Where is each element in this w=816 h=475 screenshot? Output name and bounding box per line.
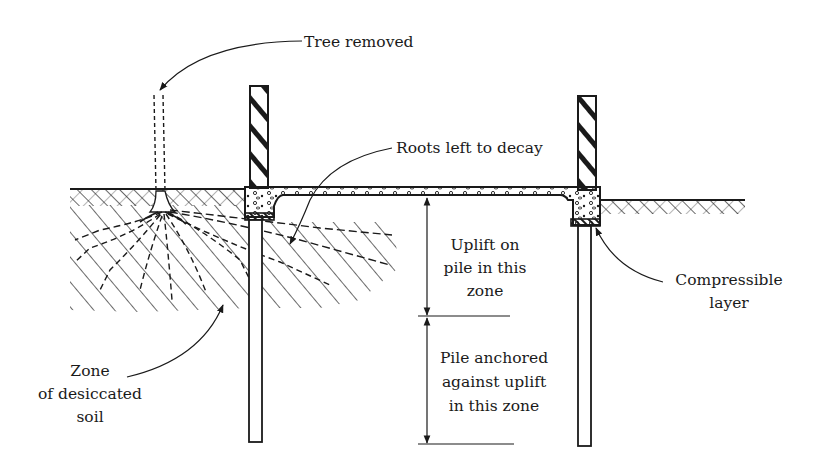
svg-text:Zone: Zone [70,362,109,380]
svg-text:pile in this: pile in this [444,259,527,277]
label-tree-removed: Tree removed [304,33,414,51]
pile-foundation-diagram: Tree removed Roots left to decay Uplift … [0,0,816,475]
label-desiccated-zone: Zone of desiccated soil [38,362,142,426]
svg-text:layer: layer [709,294,749,312]
desiccated-leader [127,305,223,377]
left-wall [250,86,268,188]
svg-text:zone: zone [467,282,504,300]
label-roots-left: Roots left to decay [396,139,543,157]
svg-text:of desiccated: of desiccated [38,385,142,403]
svg-text:against uplift: against uplift [442,373,547,391]
tree-removed-leader [160,41,302,90]
label-compressible-layer: Compressible layer [675,271,782,312]
right-wall [578,96,596,190]
svg-text:Compressible: Compressible [675,271,782,289]
svg-text:in this zone: in this zone [449,397,540,415]
label-uplift-zone: Uplift on pile in this zone [444,236,527,300]
left-pile [249,220,262,442]
desiccated-soil-zone [70,205,397,312]
compressible-leader [596,228,663,282]
right-pile [578,226,591,446]
svg-text:Uplift on: Uplift on [450,236,519,254]
svg-text:soil: soil [76,408,103,426]
ground-beam [245,187,600,225]
label-anchored-zone: Pile anchored against uplift in this zon… [440,349,548,415]
removed-tree-outline [154,95,165,191]
ground-surface-right [600,200,745,214]
svg-text:Pile anchored: Pile anchored [440,349,548,367]
left-compressible-pad [245,213,274,220]
right-compressible-pad [571,219,600,226]
